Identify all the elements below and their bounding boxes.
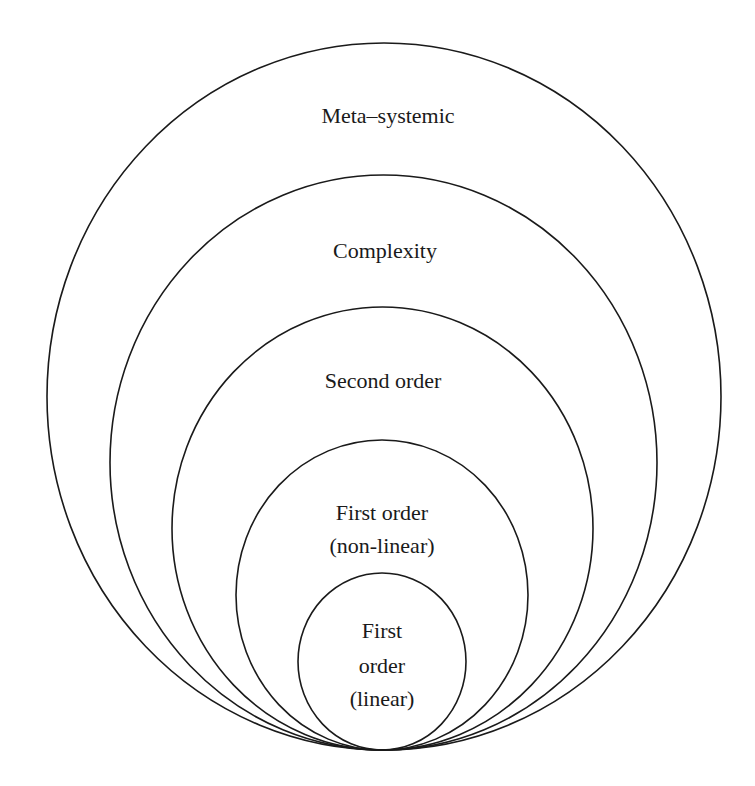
label-second-order: Second order — [325, 368, 442, 393]
nested-circles-diagram: Meta–systemic Complexity Second order Fi… — [0, 0, 755, 786]
ring-second-order: Second order — [172, 307, 593, 750]
label-first-order-non-linear-line2: (non-linear) — [329, 533, 434, 558]
label-complexity: Complexity — [333, 238, 437, 263]
label-first-order-linear-line3: (linear) — [350, 686, 415, 711]
label-first-order-linear-line2: order — [359, 653, 406, 678]
label-first-order-linear-line1: First — [362, 618, 402, 643]
ring-meta-systemic: Meta–systemic — [47, 43, 721, 750]
label-meta-systemic: Meta–systemic — [321, 103, 454, 128]
ring-first-order-linear: First order (linear) — [298, 573, 466, 750]
ellipse-meta-systemic — [47, 43, 721, 750]
label-first-order-non-linear-line1: First order — [336, 500, 429, 525]
